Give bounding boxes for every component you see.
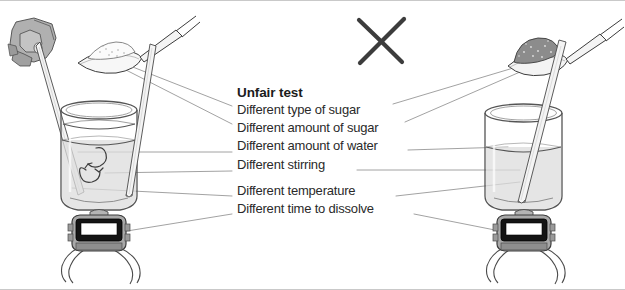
label-item-type-of-sugar: Different type of sugar	[237, 101, 437, 119]
label-item-amount-of-water: Different amount of water	[237, 137, 437, 155]
unfair-test-diagram: Unfair test Different type of sugar Diff…	[0, 0, 625, 290]
label-list: Unfair test Different type of sugar Diff…	[237, 84, 437, 218]
label-item-time-to-dissolve: Different time to dissolve	[237, 200, 437, 218]
label-item-stirring: Different stirring	[237, 156, 437, 174]
label-item-temperature: Different temperature	[237, 182, 437, 200]
label-item-amount-of-sugar: Different amount of sugar	[237, 119, 437, 137]
page-title: Unfair test	[237, 84, 437, 101]
